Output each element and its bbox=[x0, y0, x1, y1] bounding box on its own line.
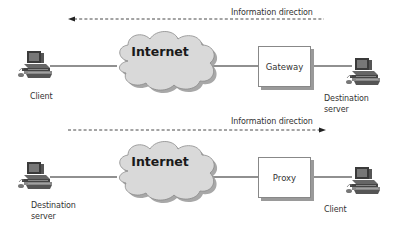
top-direction-label: Information direction bbox=[231, 8, 313, 17]
bottom-server-label-line2: server bbox=[31, 212, 56, 221]
bottom-server-label-line1: Destination bbox=[31, 201, 76, 210]
top-server-label-line1: Destination bbox=[324, 94, 369, 103]
bottom-client-computer-icon bbox=[346, 167, 380, 194]
top-internet-cloud bbox=[119, 32, 217, 94]
bottom-cloud-label: Internet bbox=[131, 154, 189, 169]
bottom-server-computer-icon bbox=[18, 162, 52, 189]
top-cloud-label: Internet bbox=[131, 44, 189, 59]
proxy-label: Proxy bbox=[259, 173, 310, 183]
top-server-computer-icon bbox=[346, 58, 380, 85]
top-client-computer-icon bbox=[18, 51, 52, 78]
top-server-label-line2: server bbox=[324, 105, 349, 114]
arrowhead-left-icon bbox=[68, 17, 75, 22]
diagram-canvas bbox=[0, 0, 393, 234]
bottom-client-label: Client bbox=[324, 205, 347, 214]
bottom-internet-cloud bbox=[119, 142, 217, 204]
proxy-box: Proxy bbox=[258, 157, 311, 198]
gateway-label: Gateway bbox=[259, 62, 310, 72]
top-client-label: Client bbox=[30, 92, 53, 101]
arrowhead-right-icon bbox=[319, 128, 326, 133]
gateway-box: Gateway bbox=[258, 46, 311, 87]
bottom-direction-label: Information direction bbox=[231, 117, 313, 126]
